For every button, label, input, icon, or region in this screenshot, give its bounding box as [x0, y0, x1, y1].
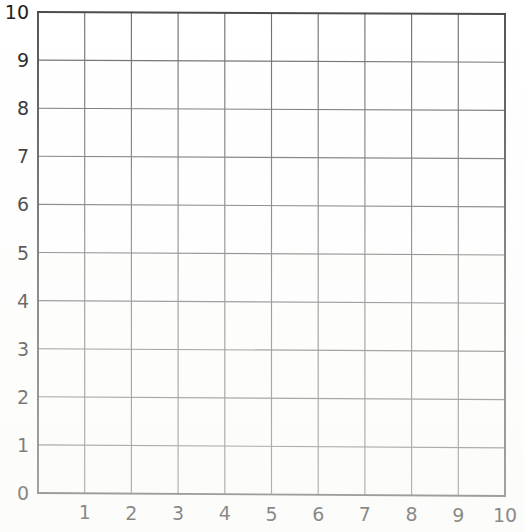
y-tick-label-7: 7: [17, 145, 29, 167]
x-tick-label-5: 5: [265, 503, 277, 525]
x-tick-label-3: 3: [172, 502, 184, 524]
x-tick-label-1: 1: [79, 501, 91, 523]
x-tick-label-6: 6: [312, 503, 324, 525]
coordinate-grid-chart: 012345678910 12345678910: [0, 0, 524, 532]
y-tick-label-10: 10: [5, 1, 29, 23]
y-tick-label-9: 9: [17, 49, 29, 71]
y-tick-label-3: 3: [17, 338, 29, 360]
x-tick-label-2: 2: [125, 502, 137, 524]
x-tick-label-9: 9: [452, 504, 464, 526]
y-tick-label-4: 4: [17, 290, 29, 312]
paper-background: [0, 0, 524, 532]
y-tick-label-1: 1: [17, 434, 29, 456]
y-tick-label-8: 8: [17, 97, 29, 119]
y-tick-label-6: 6: [17, 193, 29, 215]
y-tick-label-2: 2: [17, 386, 29, 408]
x-tick-label-4: 4: [219, 502, 231, 524]
grid-canvas: 012345678910 12345678910: [0, 0, 524, 532]
x-tick-label-8: 8: [406, 503, 418, 525]
y-tick-label-5: 5: [17, 242, 29, 264]
x-tick-label-10: 10: [493, 504, 517, 526]
x-tick-label-7: 7: [359, 503, 371, 525]
y-tick-label-0: 0: [17, 482, 29, 504]
